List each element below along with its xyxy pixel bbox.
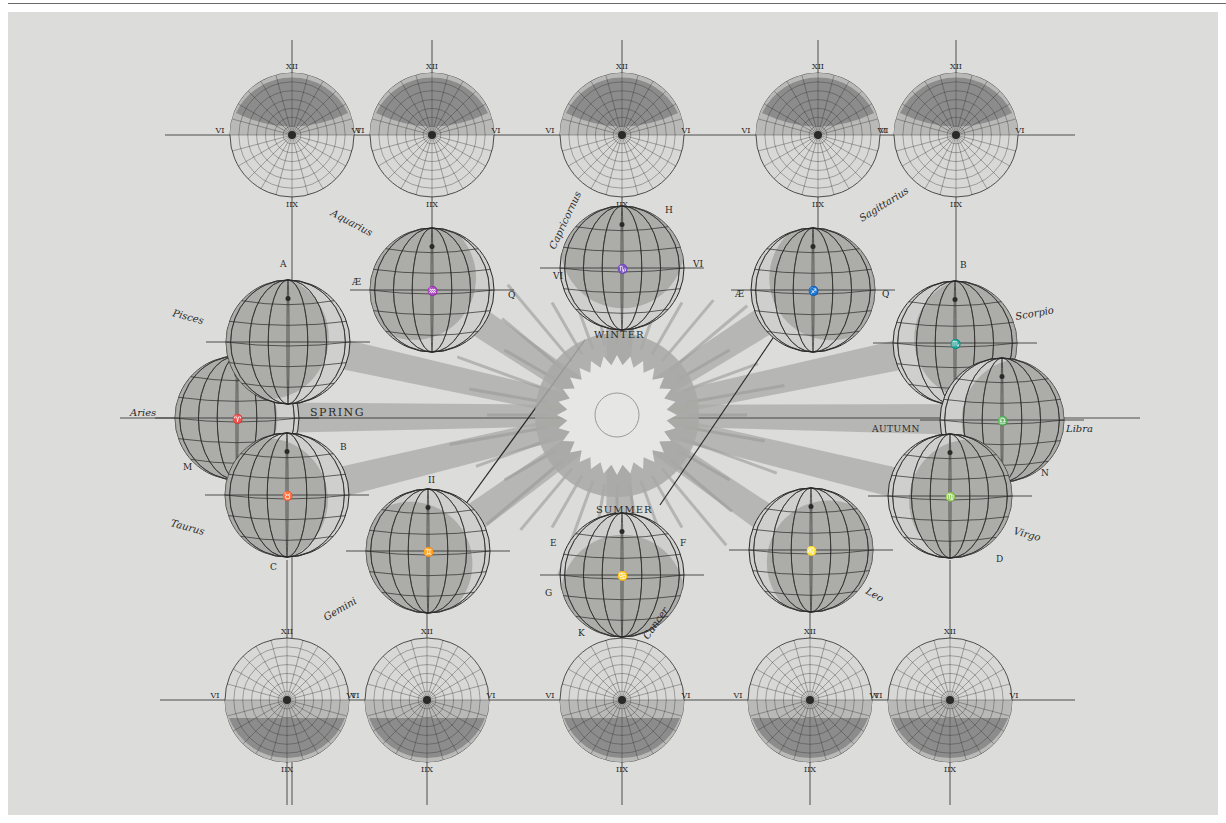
- hour-numeral: IIX: [944, 765, 956, 774]
- season-spring: SPRING: [310, 406, 365, 419]
- hour-numeral: IIX: [812, 200, 824, 209]
- hour-numeral: IIX: [426, 200, 438, 209]
- point-label: M: [183, 462, 192, 472]
- hour-numeral: XII: [281, 627, 293, 636]
- hour-numeral: VI: [733, 691, 743, 700]
- hour-numeral: VI: [873, 691, 883, 700]
- point-label: II: [428, 475, 436, 485]
- point-label: B: [340, 442, 347, 452]
- hour-numeral: VI: [486, 691, 496, 700]
- hour-numeral: IIX: [281, 765, 293, 774]
- season-winter: WINTER: [594, 329, 644, 340]
- point-label: C: [270, 562, 277, 572]
- sundial-bottom-3: XIIVIVIIIX: [545, 627, 691, 774]
- seasons-diagram: XIIVIVIIIXXIIVIVIIIXXIIVIVIIIXXIIVIVIIIX…: [8, 12, 1218, 815]
- point-label: Q: [882, 289, 889, 299]
- hour-numeral: VI: [210, 691, 220, 700]
- season-autumn: AUTUMN: [871, 424, 920, 434]
- sun-icon: [535, 333, 699, 497]
- hour-numeral: IIX: [804, 765, 816, 774]
- hour-numeral: IIX: [616, 765, 628, 774]
- hour-numeral: XII: [804, 627, 816, 636]
- zodiac-symbol: ♎: [997, 415, 1008, 426]
- point-label: VI: [692, 259, 703, 269]
- sign-label-libra: Libra: [1065, 423, 1093, 434]
- zodiac-symbol: ♍: [945, 491, 956, 502]
- sundial-bottom-4: XIIVIVIIIX: [733, 627, 879, 774]
- hour-numeral: VI: [1009, 691, 1019, 700]
- zodiac-symbol: ♒: [427, 285, 438, 296]
- hour-numeral: VI: [355, 126, 365, 135]
- hour-numeral: XII: [950, 62, 962, 71]
- hour-numeral: VI: [545, 691, 555, 700]
- sundial-bottom-1: XIIVIVIIIX: [210, 627, 356, 774]
- point-label: H: [665, 205, 673, 215]
- hour-numeral: XII: [944, 627, 956, 636]
- point-label: Q: [508, 290, 515, 300]
- sign-label-aquarius: Aquarius: [328, 207, 374, 239]
- sign-label-taurus: Taurus: [169, 517, 205, 537]
- point-label: E: [550, 538, 557, 548]
- point-label: F: [680, 538, 686, 548]
- zodiac-symbol: ♋: [617, 570, 628, 581]
- hour-numeral: XII: [286, 62, 298, 71]
- sundial-top-3: XIIVIVIIIX: [545, 62, 691, 209]
- hour-numeral: VI: [741, 126, 751, 135]
- zodiac-symbol: ♑: [617, 263, 628, 274]
- sign-label-gemini: Gemini: [322, 595, 359, 623]
- hour-numeral: VI: [1015, 126, 1025, 135]
- hour-numeral: VI: [681, 691, 691, 700]
- hour-numeral: VI: [491, 126, 501, 135]
- hour-numeral: XII: [812, 62, 824, 71]
- hour-numeral: IIX: [950, 200, 962, 209]
- sundial-top-1: XIIVIVIIIX: [215, 62, 361, 209]
- hour-numeral: VI: [215, 126, 225, 135]
- point-label: K: [578, 628, 585, 638]
- hour-numeral: XII: [426, 62, 438, 71]
- earth-cancer: ♋EFGK: [540, 513, 704, 659]
- sign-label-pisces: Pisces: [171, 307, 205, 326]
- sign-label-leo: Leo: [863, 585, 885, 604]
- hour-numeral: VI: [681, 126, 691, 135]
- point-label: VI: [552, 271, 563, 281]
- point-label: B: [960, 260, 967, 270]
- hour-numeral: IIX: [421, 765, 433, 774]
- top-rule-line: [8, 3, 1226, 4]
- zodiac-symbol: ♊: [423, 546, 434, 557]
- hour-numeral: VI: [879, 126, 889, 135]
- sundial-top-2: XIIVIVIIIX: [355, 62, 501, 209]
- engraving-plate: XIIVIVIIIXXIIVIVIIIXXIIVIVIIIXXIIVIVIIIX…: [8, 12, 1218, 815]
- zodiac-symbol: ♈: [232, 413, 243, 424]
- zodiac-symbol: ♏: [950, 338, 961, 349]
- sign-label-sagittarius: Sagittarius: [857, 185, 910, 224]
- sundial-bottom-5: XIIVIVIIIX: [873, 627, 1019, 774]
- season-summer: SUMMER: [596, 504, 653, 515]
- zodiac-symbol: ♉: [282, 490, 293, 501]
- sundial-bottom-2: XIIVIVIIIX: [350, 627, 496, 774]
- point-label: A: [279, 259, 287, 269]
- point-label: G: [545, 588, 552, 598]
- hour-numeral: XII: [616, 62, 628, 71]
- sundial-top-4: XIIVIVIIIX: [741, 62, 887, 209]
- point-label: Æ: [734, 289, 744, 299]
- sign-label-virgo: Virgo: [1012, 525, 1041, 543]
- sign-label-aries: Aries: [129, 407, 156, 418]
- point-label: D: [996, 554, 1003, 564]
- zodiac-symbol: ♐: [808, 285, 819, 296]
- point-label: Æ: [351, 277, 361, 287]
- hour-numeral: VI: [545, 126, 555, 135]
- point-label: N: [1041, 468, 1049, 478]
- hour-numeral: VI: [350, 691, 360, 700]
- sign-label-scorpio: Scorpio: [1014, 304, 1054, 322]
- hour-numeral: XII: [421, 627, 433, 636]
- hour-numeral: IIX: [286, 200, 298, 209]
- zodiac-symbol: ♌: [806, 545, 817, 556]
